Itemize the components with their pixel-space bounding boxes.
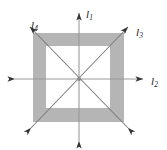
square-frame-shape (0, 0, 167, 150)
line-label-l2-sub: 2 (154, 80, 158, 89)
geometry-figure: l1 l2 l3 l4 (0, 0, 167, 150)
line-label-l1: l1 (86, 9, 93, 20)
line-label-l1-sub: 1 (89, 13, 93, 22)
line-label-l2: l2 (151, 76, 158, 87)
line-label-l3: l3 (136, 27, 143, 38)
line-label-l4-sub: 4 (34, 24, 38, 33)
figure-canvas (0, 0, 167, 150)
center-point (77, 77, 81, 81)
line-label-l4: l4 (31, 20, 38, 31)
line-label-l3-sub: 3 (139, 31, 143, 40)
